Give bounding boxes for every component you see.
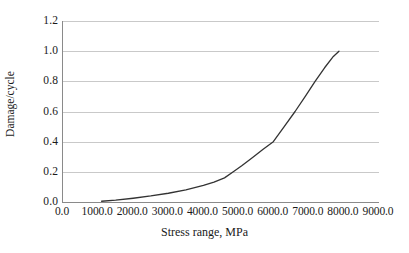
chart-figure: Damage/cycle 0.00.20.40.60.81.01.2 0.010… <box>0 0 409 253</box>
x-axis-tick-labels: 0.01000.02000.03000.04000.05000.06000.07… <box>0 205 409 221</box>
plot-area <box>62 21 379 203</box>
y-axis-title: Damage/cycle <box>4 52 16 156</box>
x-axis-title: Stress range, MPa <box>0 226 409 239</box>
y-axis-tick-label: 0.6 <box>24 106 58 118</box>
y-axis-tick-label: 0.8 <box>24 75 58 87</box>
y-axis-tick-label: 0.2 <box>24 166 58 178</box>
x-axis-tick-label: 9000.0 <box>351 205 405 217</box>
y-axis-tick-label: 0.4 <box>24 136 58 148</box>
data-series-line <box>63 21 379 202</box>
y-axis-title-wrapper: Damage/cycle <box>0 0 20 220</box>
y-axis-tick-label: 1.2 <box>24 15 58 27</box>
y-axis-tick-label: 1.0 <box>24 45 58 57</box>
